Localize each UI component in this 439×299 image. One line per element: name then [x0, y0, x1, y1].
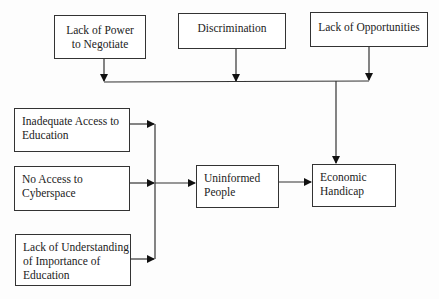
node-inadequate-access: Inadequate Access to Education: [14, 108, 130, 152]
node-label: Lack of Power to Negotiate: [66, 23, 134, 51]
node-lack-of-power: Lack of Power to Negotiate: [54, 15, 146, 59]
node-label: Lack of Opportunities: [318, 20, 420, 34]
node-label: Inadequate Access to Education: [22, 114, 129, 142]
node-label: Lack of Understanding of Importance of E…: [23, 240, 130, 282]
node-label: No Access to Cyberspace: [22, 172, 129, 200]
node-label: Economic Handicap: [320, 170, 395, 198]
node-label: Discrimination: [198, 21, 267, 35]
node-economic-handicap: Economic Handicap: [312, 164, 396, 207]
node-lack-of-opportunities: Lack of Opportunities: [310, 12, 428, 47]
node-label: Uninformed People: [204, 171, 278, 199]
node-lack-of-understanding: Lack of Understanding of Importance of E…: [15, 234, 131, 286]
node-discrimination: Discrimination: [178, 13, 286, 49]
node-uninformed-people: Uninformed People: [196, 165, 279, 208]
node-no-access-cyberspace: No Access to Cyberspace: [14, 166, 130, 211]
